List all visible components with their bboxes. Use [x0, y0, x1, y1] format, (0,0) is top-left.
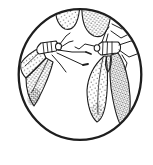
- right-insect-thorax-band: [107, 42, 108, 55]
- right-insect-head: [94, 45, 100, 51]
- illustration-canvas: Pen-and-ink line drawing of whiteflies w…: [0, 0, 153, 165]
- right-insect-leg: [119, 50, 137, 57]
- top-wing-right: [82, 2, 112, 37]
- left-insect-leg-tarsus: [86, 52, 91, 54]
- whitefly-left: [21, 33, 91, 108]
- left-insect-leg-tarsus: [83, 64, 88, 65]
- left-insect-leg: [52, 55, 66, 72]
- right-insect-left-wingtip-shading: [92, 102, 103, 120]
- left-insect-antenna: [61, 41, 73, 47]
- left-insect-leg: [58, 50, 86, 52]
- left-insect-leg: [57, 53, 83, 65]
- right-insect-thorax: [97, 42, 120, 55]
- top-insect-leg: [106, 34, 108, 42]
- right-insect-antenna: [75, 44, 94, 49]
- top-partial-whitefly: [55, 2, 133, 42]
- right-insect-thorax-band: [103, 42, 104, 55]
- top-wing-left: [55, 2, 80, 29]
- whitefly-illustration: Pen-and-ink line drawing of whiteflies w…: [0, 0, 153, 165]
- left-insect-head: [56, 43, 62, 50]
